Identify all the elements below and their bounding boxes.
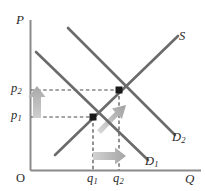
equilibrium-point-1 [90, 114, 97, 121]
quantity-tick-q1-sub: 1 [93, 176, 97, 186]
quantity-tick-q1: q1 [87, 172, 98, 185]
quantity-tick-q2: q2 [113, 172, 124, 185]
quantity-tick-q2-sub: 2 [119, 176, 123, 186]
demand-curve-2-label: D2 [172, 131, 185, 144]
x-axis-label: Q [185, 172, 194, 185]
demand-curve-2-label-sub: 2 [181, 135, 185, 145]
y-axis-label: P [16, 13, 24, 26]
origin-label: O [16, 172, 25, 185]
price-tick-p1-sub: 1 [17, 113, 21, 123]
diagram-canvas [0, 0, 205, 191]
demand-curve-1-label-sub: 1 [154, 159, 158, 169]
curve-lines [36, 28, 178, 160]
demand-curve-2-label-base: D [172, 130, 181, 144]
price-tick-p2: p2 [11, 82, 22, 95]
supply-curve-label: S [179, 30, 185, 43]
price-tick-p1: p1 [11, 109, 22, 122]
demand-curve-1-label-base: D [145, 154, 154, 168]
demand-curve-1-label: D1 [145, 155, 158, 168]
demand-curve-1 [36, 52, 148, 160]
supply-curve [55, 36, 178, 155]
price-tick-p2-sub: 2 [17, 86, 21, 96]
quantity-increase-arrow [93, 148, 126, 165]
supply-demand-figure: P O Q p2 p1 q1 q2 S D2 D1 [0, 0, 205, 191]
demand-curve-2 [68, 28, 175, 135]
equilibrium-point-2 [116, 87, 123, 94]
